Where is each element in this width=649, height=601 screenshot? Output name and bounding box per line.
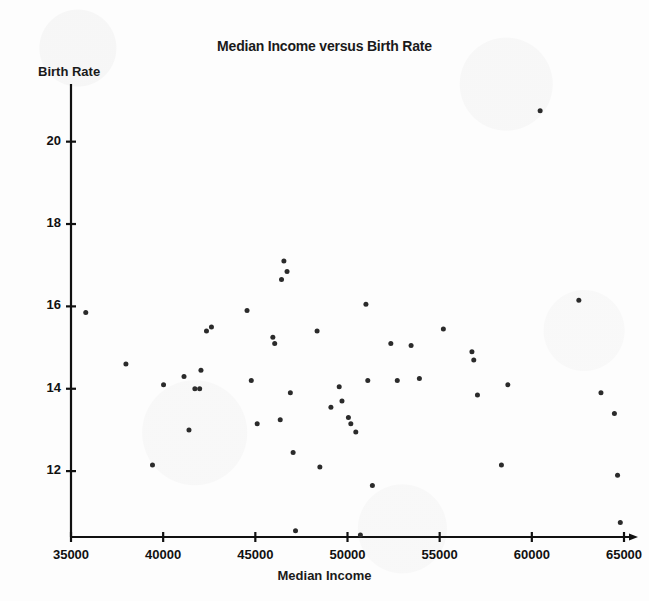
axis-lines	[71, 84, 638, 541]
plot-area	[0, 0, 649, 601]
y-tick-label: 20	[17, 133, 61, 148]
x-tick-label: 65000	[584, 547, 649, 562]
x-tick-label: 45000	[215, 547, 295, 562]
x-tick-label: 35000	[31, 547, 111, 562]
y-tick-label: 18	[17, 215, 61, 230]
scatter-plot-figure: Median Income versus Birth Rate Birth Ra…	[0, 0, 649, 601]
data-points	[83, 108, 623, 537]
y-tick-label: 14	[17, 380, 61, 395]
y-tick-label: 16	[17, 297, 61, 312]
x-tick-label: 60000	[492, 547, 572, 562]
x-tick-label: 50000	[308, 547, 388, 562]
x-tick-label: 55000	[400, 547, 480, 562]
axis-ticks	[66, 142, 624, 542]
y-tick-label: 12	[17, 462, 61, 477]
x-tick-label: 40000	[123, 547, 203, 562]
